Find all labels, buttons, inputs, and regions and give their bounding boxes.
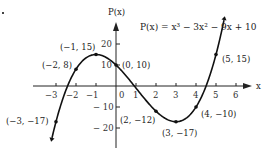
equation-label: P(x) = x³ − 3x² − 9x + 10 <box>140 22 257 32</box>
svg-text:−2: −2 <box>66 90 79 100</box>
svg-text:4: 4 <box>193 90 198 100</box>
svg-text:20: 20 <box>101 39 112 49</box>
svg-text:− 10: − 10 <box>93 102 114 112</box>
svg-text:−1: −1 <box>86 90 99 100</box>
svg-text:6: 6 <box>233 90 238 100</box>
svg-text:1: 1 <box>133 90 138 100</box>
label-0: (0, 10) <box>122 60 150 70</box>
y-axis-arrow-icon <box>113 22 119 31</box>
label-neg3: (−3, −17) <box>6 116 49 126</box>
stray-mark <box>2 12 4 14</box>
curve-arrow-left-icon <box>50 137 55 142</box>
label-neg1: (−1, 15) <box>60 42 95 52</box>
svg-text:10: 10 <box>101 60 112 70</box>
svg-text:−3: −3 <box>45 90 58 100</box>
svg-text:2: 2 <box>153 90 158 100</box>
svg-text:3: 3 <box>173 90 178 100</box>
label-neg2: (−2, 8) <box>42 60 72 70</box>
svg-text:− 20: − 20 <box>93 123 114 133</box>
svg-text:0: 0 <box>119 90 124 100</box>
label-3: (3, −17) <box>162 128 197 138</box>
x-axis-label: x <box>256 81 261 91</box>
x-axis-arrow-icon <box>243 83 252 89</box>
curve-arrow-right-icon <box>222 16 227 20</box>
svg-text:5: 5 <box>213 90 218 100</box>
label-4: (4, −10) <box>201 109 236 119</box>
label-5: (5, 15) <box>222 54 250 64</box>
chart: x P(x) −3 −2 −1 0 1 2 3 4 5 6 20 10 − 10 <box>0 0 273 155</box>
label-2: (2, −12) <box>120 115 155 125</box>
y-axis-label: P(x) <box>108 7 125 17</box>
